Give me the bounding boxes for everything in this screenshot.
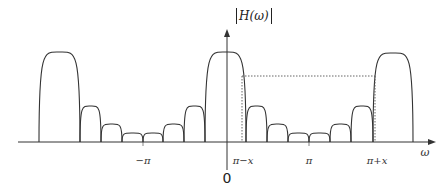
tick-label-pi-minus-x: π−x xyxy=(233,155,254,166)
origin-label: 0 xyxy=(223,170,232,186)
x-axis-label: ω xyxy=(421,146,430,159)
sidelobe xyxy=(143,133,163,142)
y-axis-label: H(ω) xyxy=(236,8,272,24)
alias-main-lobe xyxy=(373,53,413,142)
tick-label-pi-plus-x: π+x xyxy=(367,155,388,166)
sidelobe xyxy=(101,124,122,142)
sidelobe xyxy=(80,106,101,142)
tick-label-neg-pi: −π xyxy=(136,155,151,166)
sidelobe xyxy=(309,133,330,142)
sidelobe xyxy=(163,124,184,142)
dotted-guides xyxy=(242,76,375,142)
sidelobe xyxy=(351,106,373,142)
sidelobe xyxy=(122,133,143,142)
sidelobe xyxy=(246,106,267,142)
sidelobe xyxy=(288,133,309,142)
sidelobe xyxy=(267,124,288,142)
sidelobe xyxy=(330,124,351,142)
x-axis-arrow-icon xyxy=(428,139,436,145)
main-lobe xyxy=(205,52,246,142)
abs-bar-right xyxy=(271,8,272,24)
tick-label-pi: π xyxy=(306,155,313,166)
alias-main-lobe xyxy=(39,52,80,142)
y-axis-label-text: H(ω) xyxy=(237,9,271,23)
y-axis-arrow-icon xyxy=(224,29,230,37)
sidelobe xyxy=(184,106,205,142)
lobes xyxy=(39,52,413,142)
